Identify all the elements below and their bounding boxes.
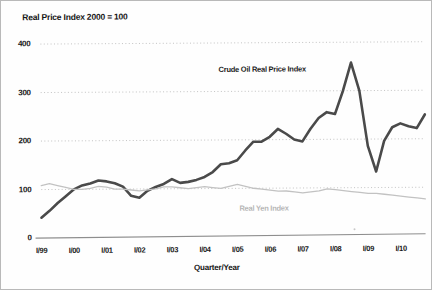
scan-speck (354, 228, 356, 230)
series-line (41, 62, 426, 218)
series-line (41, 181, 425, 201)
plot-area (0, 0, 432, 290)
x-axis-line (36, 234, 426, 238)
chart-figure: Real Price Index 2000 = 100 010020030040… (0, 0, 432, 290)
annotation-real-yen: Real Yen Index (239, 204, 288, 213)
series-lines (41, 62, 426, 218)
annotation-crude-oil: Crude Oil Real Price Index (219, 64, 306, 74)
chart-skew-wrapper: Real Price Index 2000 = 100 010020030040… (0, 0, 432, 290)
